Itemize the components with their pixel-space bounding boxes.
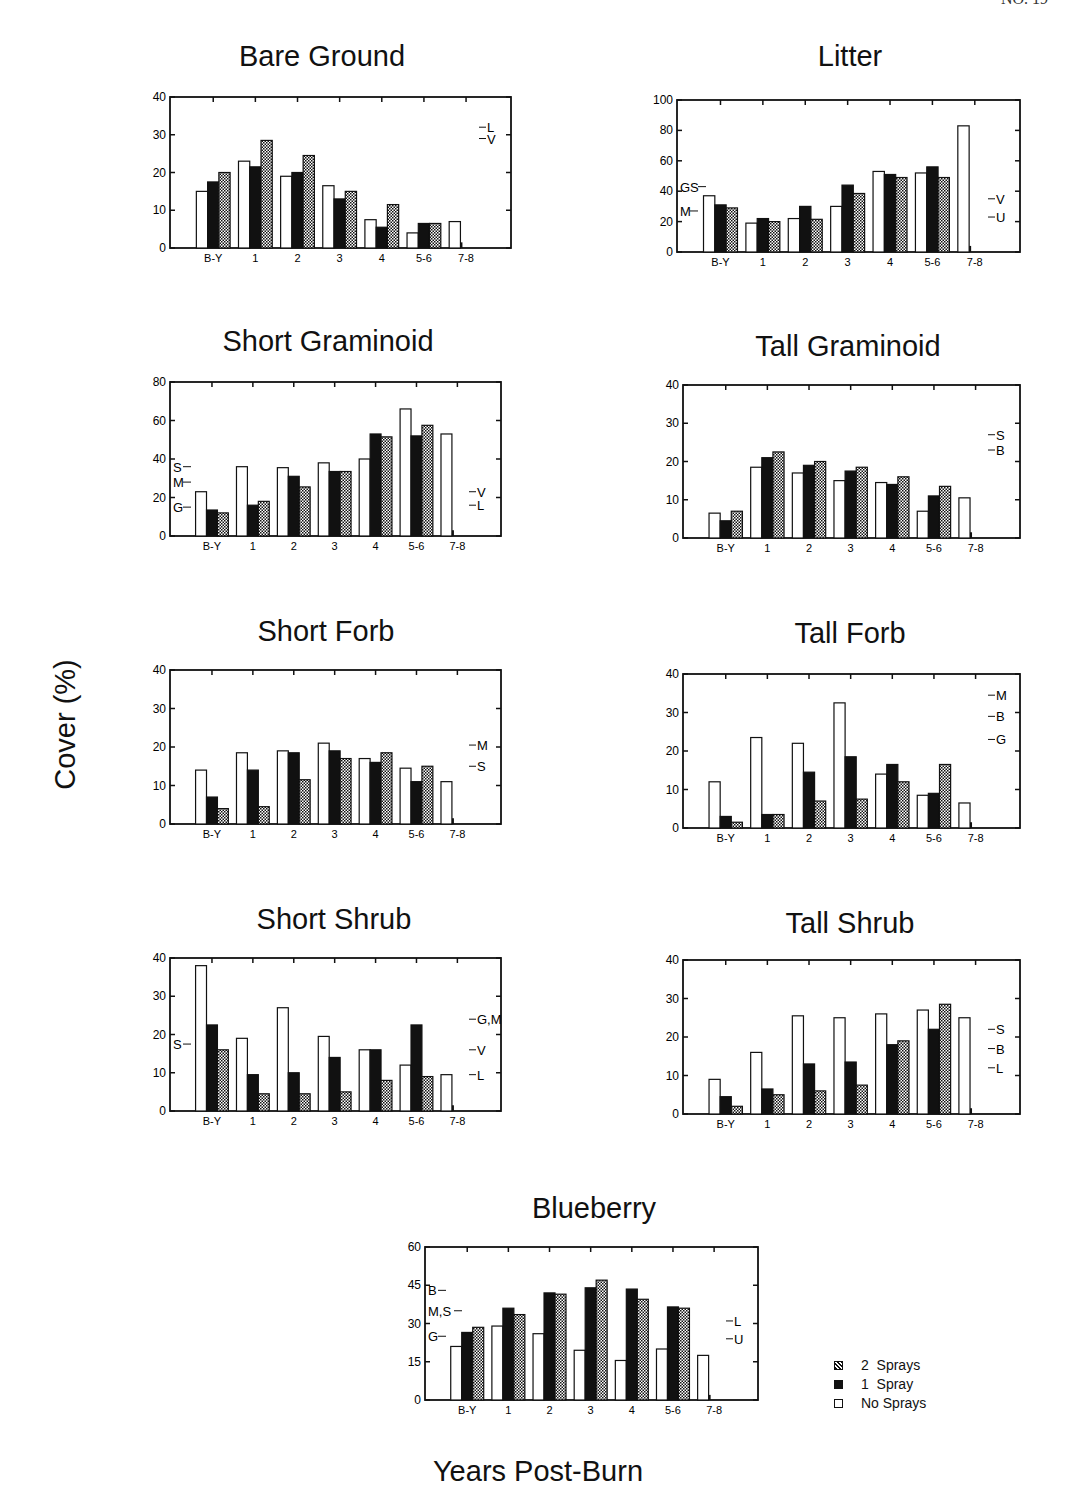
bar [887,484,898,538]
bar [709,782,720,828]
svg-text:20: 20 [666,1030,680,1044]
chart-plot: 020406080B-Y12345-67-8SMGVL [130,382,541,576]
bar [381,437,392,536]
svg-text:30: 30 [666,416,680,430]
svg-text:5-6: 5-6 [409,540,425,552]
svg-text:2: 2 [806,1118,812,1130]
svg-text:B-Y: B-Y [717,832,736,844]
bar [720,521,731,538]
svg-text:B: B [996,443,1005,458]
bar [873,171,884,252]
bar [831,206,842,252]
chart-plot: 015304560B-Y12345-67-8BM,SGLU [385,1247,798,1440]
svg-text:30: 30 [153,989,167,1003]
bar [751,738,762,828]
svg-text:4: 4 [887,256,893,268]
svg-text:1: 1 [764,1118,770,1130]
bar [788,219,799,252]
bar [451,1346,462,1400]
bar [247,505,258,536]
svg-text:7-8: 7-8 [458,252,474,264]
svg-text:S: S [996,428,1005,443]
svg-text:40: 40 [660,184,674,198]
bar [299,780,310,824]
svg-text:20: 20 [666,744,680,758]
svg-text:60: 60 [408,1240,422,1254]
bar [555,1294,566,1400]
bar [219,173,230,249]
svg-text:30: 30 [153,702,167,716]
bar [751,467,762,538]
bar [876,483,887,538]
bar [345,191,356,248]
bar [887,764,898,828]
svg-text:20: 20 [666,455,680,469]
svg-text:L: L [477,1068,484,1083]
bar [959,498,970,538]
svg-text:30: 30 [666,992,680,1006]
bar [917,795,928,828]
svg-text:1: 1 [505,1404,511,1416]
svg-text:40: 40 [153,90,167,104]
svg-text:20: 20 [660,215,674,229]
svg-text:3: 3 [332,1115,338,1127]
bar [277,468,288,536]
bar [815,801,826,828]
svg-text:7-8: 7-8 [706,1404,722,1416]
svg-text:60: 60 [153,414,167,428]
bar [927,167,938,252]
bar [441,434,452,536]
svg-text:20: 20 [153,166,167,180]
bar [834,703,845,828]
svg-text:40: 40 [153,951,167,965]
bar [247,1075,258,1111]
svg-text:S: S [996,1022,1005,1037]
bar [217,809,228,824]
bar [277,1008,288,1111]
bar [422,1077,433,1111]
bar [411,1025,422,1111]
chart-plot: 010203040B-Y12345-67-8SG,MVL [130,958,541,1151]
bar [422,425,433,536]
bar [928,496,939,538]
bar [236,1038,247,1111]
bar [340,472,351,536]
svg-text:B: B [996,1042,1005,1057]
svg-text:M: M [996,688,1007,703]
svg-text:1: 1 [760,256,766,268]
bar [834,1018,845,1114]
svg-text:60: 60 [660,154,674,168]
svg-text:U: U [734,1332,743,1347]
svg-text:2: 2 [291,540,297,552]
svg-text:B: B [428,1283,437,1298]
bar [898,782,909,828]
bar [731,822,742,828]
bar [462,1332,473,1400]
svg-text:B-Y: B-Y [717,542,736,554]
svg-text:3: 3 [332,828,338,840]
chart-title: Short Shrub [134,903,534,936]
bar [928,793,939,828]
bar [637,1299,648,1400]
svg-text:10: 10 [153,1066,167,1080]
bar [258,1094,269,1111]
bar [615,1360,626,1400]
svg-text:B-Y: B-Y [203,828,222,840]
bar [329,751,340,824]
bar [762,458,773,538]
svg-text:M: M [173,475,184,490]
svg-text:B-Y: B-Y [711,256,730,268]
bar [503,1308,514,1400]
svg-text:80: 80 [660,123,674,137]
svg-text:4: 4 [373,1115,379,1127]
bar [811,219,822,252]
svg-text:0: 0 [666,245,673,259]
chart-title: Bare Ground [122,40,522,73]
bar [288,1073,299,1111]
svg-text:0: 0 [672,821,679,835]
svg-text:L: L [734,1314,741,1329]
svg-text:100: 100 [653,93,673,107]
svg-text:M,S: M,S [428,1304,451,1319]
chart-title: Tall Forb [650,617,1050,650]
bar [928,1029,939,1114]
